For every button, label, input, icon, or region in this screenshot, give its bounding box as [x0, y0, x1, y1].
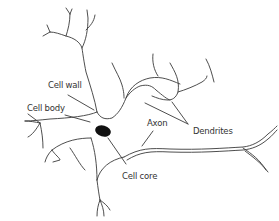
- label-dendrites: Dendrites: [193, 126, 233, 136]
- cell-core-nucleus: [94, 124, 112, 139]
- label-cell-wall: Cell wall: [48, 80, 82, 90]
- label-cell-body: Cell body: [27, 103, 65, 113]
- neuron-diagram: Cell wall Cell body Axon Dendrites Cell …: [0, 0, 279, 221]
- leader-axon: [142, 131, 153, 146]
- leader-lines: [65, 95, 188, 164]
- leader-cell-wall: [68, 95, 94, 110]
- dendrite-upper-right: [112, 54, 214, 100]
- leader-dendrites-1: [172, 102, 188, 124]
- dendrite-lower-left: [25, 114, 85, 170]
- label-axon: Axon: [147, 118, 167, 128]
- leader-cell-core: [108, 138, 126, 164]
- leader-cell-body: [65, 115, 90, 122]
- label-cell-core: Cell core: [122, 171, 157, 181]
- dendrite-bottom: [97, 180, 110, 216]
